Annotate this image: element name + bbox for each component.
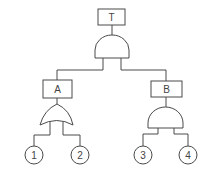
or-gate-icon	[40, 104, 73, 125]
basic-event-label: 3	[140, 150, 146, 161]
basic-event-label: 2	[77, 150, 83, 161]
and-gate-icon	[148, 107, 183, 128]
basic-event-2: 2	[71, 146, 89, 164]
basic-event-label: 1	[31, 150, 37, 161]
top-event-label: T	[108, 12, 114, 23]
basic-event-4: 4	[179, 146, 197, 164]
basic-event-1: 1	[25, 146, 43, 164]
top-event-box: T	[98, 9, 125, 25]
basic-event-label: 4	[185, 150, 191, 161]
event-a-label: A	[54, 84, 61, 95]
fault-tree-diagram: T A B 1 2 3 4	[0, 0, 207, 173]
event-a-box: A	[43, 80, 72, 98]
event-b-label: B	[163, 84, 170, 95]
event-b-box: B	[151, 81, 182, 97]
basic-event-3: 3	[134, 146, 152, 164]
and-gate-icon	[95, 35, 129, 58]
